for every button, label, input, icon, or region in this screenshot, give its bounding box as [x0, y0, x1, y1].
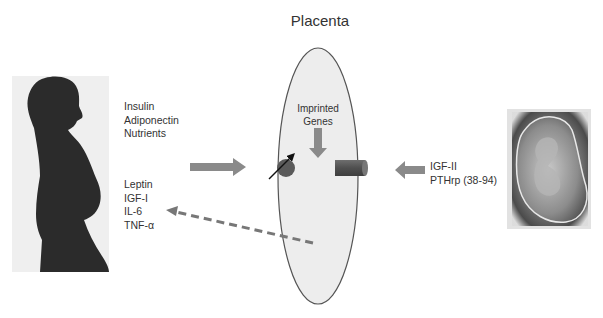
fetal-signal-pthrp: PTHrp (38-94) [430, 174, 497, 188]
placental-signals-list: Leptin IGF-I IL-6 TNF-α [124, 178, 154, 232]
maternal-signal-insulin: Insulin [124, 100, 179, 114]
imprinted-genes-label: Imprinted Genes [288, 102, 348, 128]
placental-signal-leptin: Leptin [124, 178, 154, 192]
fetus-image [507, 109, 591, 229]
placental-signal-tnf-alpha: TNF-α [124, 219, 154, 233]
placental-signal-il-6: IL-6 [124, 205, 154, 219]
mother-silhouette-image [12, 76, 109, 272]
fetal-signals-list: IGF-II PTHrp (38-94) [430, 160, 497, 187]
maternal-signal-nutrients: Nutrients [124, 127, 179, 141]
maternal-signal-adiponectin: Adiponectin [124, 114, 179, 128]
fetal-signal-igf-ii: IGF-II [430, 160, 497, 174]
maternal-signals-list: Insulin Adiponectin Nutrients [124, 100, 179, 141]
diagram-graphics [0, 0, 603, 318]
placental-signal-igf-i: IGF-I [124, 192, 154, 206]
maternal-to-placenta-arrow [190, 158, 246, 176]
transporter-cylinder [335, 160, 368, 176]
imprinted-genes-line-2: Genes [288, 115, 348, 128]
fetus-to-placenta-arrow [395, 161, 425, 179]
diagram-title: Placenta [0, 12, 603, 29]
imprinted-genes-line-1: Imprinted [288, 102, 348, 115]
